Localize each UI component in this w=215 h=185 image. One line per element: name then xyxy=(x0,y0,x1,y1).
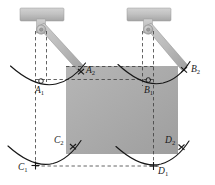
label-B2: B2 xyxy=(191,64,200,75)
linkage-diagram-svg: A2 A1 B2 B1 C2 C1 D2 D1 xyxy=(0,0,215,185)
label-A1: A1 xyxy=(34,85,44,96)
left-pivot-pin xyxy=(40,28,43,31)
marker-A1-circle xyxy=(39,79,44,84)
marker-D2-cross xyxy=(179,145,185,150)
label-C1: C1 xyxy=(18,162,28,173)
marker-C1-cross xyxy=(32,162,40,170)
right-pivot-pin xyxy=(147,28,150,31)
marker-D1-cross xyxy=(150,162,158,170)
left-bracket xyxy=(20,8,85,72)
figure-container: A2 A1 B2 B1 C2 C1 D2 D1 xyxy=(0,0,215,185)
label-C2: C2 xyxy=(54,135,64,146)
label-D1: D1 xyxy=(157,166,168,177)
right-bracket xyxy=(127,8,188,71)
